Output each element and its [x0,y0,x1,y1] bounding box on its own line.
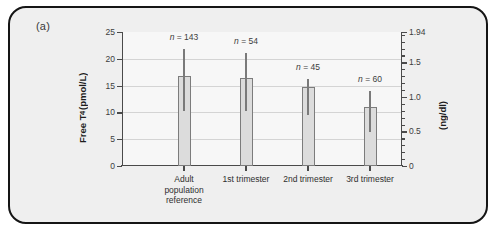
y-tick-secondary-minor [402,159,405,160]
y-tick-label-secondary: 1.0 [409,92,421,102]
x-axis-line [121,165,403,166]
sample-size-label: n = 60 [358,74,382,84]
y-tick-label-secondary: 0.5 [409,126,421,136]
y-tick-secondary-minor [402,145,405,146]
bar-group[interactable]: n = 45 [302,32,315,166]
y-tick-secondary [402,131,407,132]
sample-size-label: n = 143 [170,32,199,42]
gridline [122,59,402,60]
bar-group[interactable]: n = 143 [178,32,191,166]
plot-area: 0510152025 00.51.01.51.94 n = 143n = 54n… [122,32,402,166]
y-tick-secondary-minor [402,125,405,126]
y-axis-title-secondary: (ng/dl) [434,80,450,150]
x-tick [369,166,370,171]
y-tick-secondary-minor [402,35,405,36]
figure-panel: (a) Free T4 (pmol/L) (ng/dl) 0510152025 … [8,6,488,224]
y-tick-primary [117,86,122,87]
error-bar-inner [369,107,370,132]
y-tick-secondary [402,62,407,63]
bar-group[interactable]: n = 54 [240,32,253,166]
y-tick-secondary-minor [402,55,405,56]
y-tick-primary [117,59,122,60]
plot-background [122,32,402,166]
x-axis-category-label: Adult population reference [164,174,203,206]
error-bar-inner [245,78,246,111]
x-tick [307,166,308,171]
y-tick-secondary-minor [402,118,405,119]
y-tick-label-primary: 5 [110,134,115,144]
panel-label: (a) [36,20,50,32]
gridline [122,139,402,140]
y-tick-secondary-minor [402,90,405,91]
error-bar-inner [307,87,308,115]
x-tick [245,166,246,171]
y-tick-label-primary: 20 [106,54,115,64]
y-tick-secondary-minor [402,111,405,112]
y-tick-label-primary: 15 [106,81,115,91]
y-tick-primary [117,166,122,167]
y-tick-label-primary: 0 [110,161,115,171]
y-tick-primary [117,139,122,140]
gridline [122,86,402,87]
y-tick-secondary-minor [402,152,405,153]
y-axis-primary-line [122,32,123,166]
y-tick-label-primary: 25 [106,27,115,37]
y-tick-label-secondary: 1.5 [409,57,421,67]
sample-size-label: n = 45 [296,62,320,72]
y-tick-secondary-minor [402,42,405,43]
error-bar-inner [183,76,184,111]
x-axis-category-label: 1st trimester [223,174,270,185]
y-axis-title-primary: Free T4 (pmol/L) [74,58,90,158]
y-tick-secondary [402,166,407,167]
y-tick-secondary-minor [402,69,405,70]
x-axis-category-label: 2nd trimester [283,174,333,185]
x-axis-category-label: 3rd trimester [346,174,394,185]
x-tick [183,166,184,171]
y-tick-secondary-minor [402,83,405,84]
gridline [122,112,402,113]
bar-group[interactable]: n = 60 [364,32,377,166]
y-tick-secondary-minor [402,49,405,50]
y-tick-secondary [402,97,407,98]
y-tick-label-secondary: 0 [409,161,414,171]
y-tick-primary [117,32,122,33]
y-tick-secondary-minor [402,138,405,139]
y-tick-secondary-minor [402,76,405,77]
y-tick-primary [117,112,122,113]
y-tick-secondary [402,32,407,33]
sample-size-label: n = 54 [234,36,258,46]
y-tick-label-primary: 10 [106,107,115,117]
y-tick-secondary-minor [402,104,405,105]
y-tick-label-secondary: 1.94 [409,27,426,37]
